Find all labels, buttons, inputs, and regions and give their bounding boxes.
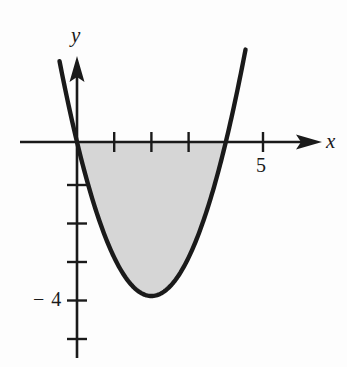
parabola-figure: x y 5 − 4: [0, 0, 347, 367]
y-axis-label: y: [71, 25, 80, 46]
x-axis-label: x: [326, 131, 335, 152]
plot-canvas: [0, 0, 347, 367]
x-tick-label-5: 5: [256, 155, 266, 175]
y-tick-label-neg-4: − 4: [33, 289, 62, 309]
